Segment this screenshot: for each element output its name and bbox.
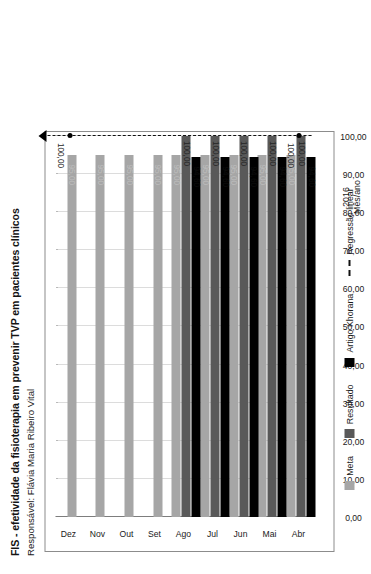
bar-group: 95,00100,0094,60 [227,138,256,517]
bar-group: 95,00 [112,138,141,517]
bar-resultado[interactable] [267,136,276,517]
category-tick-jun: Jun [229,529,251,539]
bar-value-label: 95,00 [228,159,237,185]
bar-meta[interactable] [200,155,209,517]
bar-meta[interactable] [286,155,295,517]
bar-khorana[interactable] [277,157,286,517]
bar-resultado[interactable] [239,136,248,517]
chart-legend: MetaResultadoArtigo KhoranaRegressão lin… [344,144,354,534]
bar-resultado[interactable] [181,136,190,517]
bar-group: 95,00 [55,138,84,517]
chart-subtitle: Responsável: Flávia Maria Ribeiro Vital [24,16,36,556]
regression-endpoint-label: 100,00 [285,140,294,168]
category-tick-ago: Ago [172,529,194,539]
square-swatch-icon [344,481,354,490]
category-tick-abr: Abr [287,529,309,539]
bar-meta[interactable] [124,155,133,517]
bar-value-label: 100,00 [296,140,305,166]
bar-value-label: 100,00 [238,140,247,166]
square-swatch-icon [344,358,354,367]
bar-resultado[interactable] [210,136,219,517]
bar-value-label: 95,00 [66,159,75,185]
bar-group: 95,00100,0094,60 [170,138,199,517]
legend-item-regress-o-linear[interactable]: Regressão linear [344,188,354,276]
chart-figure: FIS - efetividade da fisioterapia em pre… [0,0,371,574]
category-tick-nov: Nov [86,529,108,539]
bar-khorana[interactable] [220,157,229,517]
category-tick-out: Out [115,529,137,539]
bar-value-label: 95,00 [257,159,266,185]
bar-meta[interactable] [153,155,162,517]
bar-value-label: 100,00 [181,140,190,166]
legend-item-meta[interactable]: Meta [344,456,354,490]
bar-value-label: 95,00 [200,159,209,185]
bar-value-label: 94,60 [306,161,315,187]
bar-group: 95,00 [141,138,170,517]
bar-value-label: 100,00 [267,140,276,166]
plot-area: 95,00100,0094,6095,00100,0094,6095,00100… [55,138,311,517]
bar-value-label: 100,00 [210,140,219,166]
bar-khorana[interactable] [191,157,200,517]
category-tick-mai: Mai [258,529,280,539]
value-tick-label: 100,00 [336,132,370,142]
regression-line [47,135,311,136]
bar-resultado[interactable] [296,136,305,517]
bar-value-label: 94,60 [248,161,257,187]
bar-group: 95,00100,0094,60 [198,138,227,517]
title-block: FIS - efetividade da fisioterapia em pre… [8,16,36,556]
legend-label: Meta [344,456,354,476]
bar-meta[interactable] [171,155,180,517]
regression-arrow-icon [38,130,46,142]
legend-item-resultado[interactable]: Resultado [344,385,354,439]
category-tick-jul: Jul [201,529,223,539]
bar-value-label: 95,00 [152,159,161,185]
square-swatch-icon [344,429,354,438]
bar-value-label: 95,00 [124,159,133,185]
legend-label: Artigo Khorana [344,294,354,353]
plot-frame: 95,00100,0094,6095,00100,0094,6095,00100… [44,131,334,552]
bar-value-label: 95,00 [95,159,104,185]
bar-khorana[interactable] [249,157,258,517]
category-tick-set: Set [143,529,165,539]
legend-item-artigo-khorana[interactable]: Artigo Khorana [344,294,354,367]
bar-value-label: 94,60 [191,161,200,187]
legend-label: Regressão linear [344,188,354,255]
regression-endpoint-label: 100,00 [55,140,64,168]
bar-meta[interactable] [67,155,76,517]
dashed-line-icon [348,260,350,276]
bar-value-label: 94,60 [220,161,229,187]
bar-meta[interactable] [229,155,238,517]
category-tick-dez: Dez [57,529,79,539]
page-title: FIS - efetividade da fisioterapia em pre… [8,16,21,556]
bar-meta[interactable] [95,155,104,517]
bar-group: 95,00 [84,138,113,517]
bar-khorana[interactable] [306,157,315,517]
bar-value-label: 95,00 [171,159,180,185]
bar-group: 95,00100,0094,60 [284,138,313,517]
bar-meta[interactable] [257,155,266,517]
bar-group: 95,00100,0094,60 [256,138,285,517]
legend-label: Resultado [344,385,354,425]
